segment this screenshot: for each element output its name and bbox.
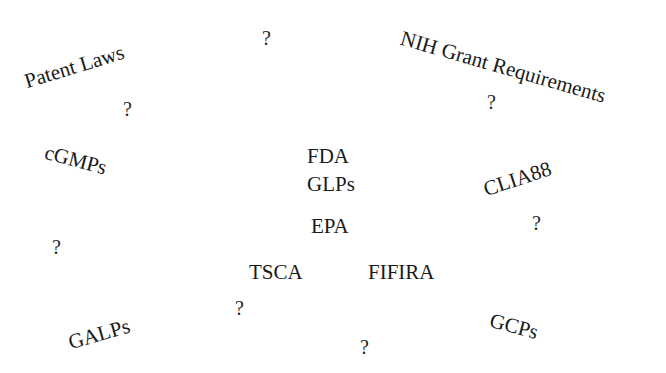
question-mark-q-mid-left: ? <box>52 237 61 257</box>
term-fda: FDA <box>307 146 349 167</box>
question-mark-q-upper-left: ? <box>123 99 132 119</box>
word-scatter-canvas: Patent LawsNIH Grant RequirementscGMPsFD… <box>0 0 666 373</box>
term-nih-grant-requirements: NIH Grant Requirements <box>398 28 608 107</box>
term-galps: GALPs <box>66 316 132 354</box>
question-mark-q-lower-left: ? <box>235 298 244 318</box>
question-mark-q-upper-right: ? <box>487 92 496 112</box>
question-mark-q-bottom-center: ? <box>360 337 369 357</box>
term-glps: GLPs <box>307 174 355 195</box>
term-fifira: FIFIRA <box>368 262 435 283</box>
term-cgmps: cGMPs <box>43 142 109 179</box>
term-epa: EPA <box>311 216 349 237</box>
question-mark-q-top-center: ? <box>262 28 271 48</box>
term-clia88: CLIA88 <box>481 158 554 200</box>
question-mark-q-mid-right: ? <box>532 213 541 233</box>
term-gcps: GCPs <box>488 310 541 343</box>
term-tsca: TSCA <box>249 262 303 283</box>
term-patent-laws: Patent Laws <box>22 42 127 92</box>
